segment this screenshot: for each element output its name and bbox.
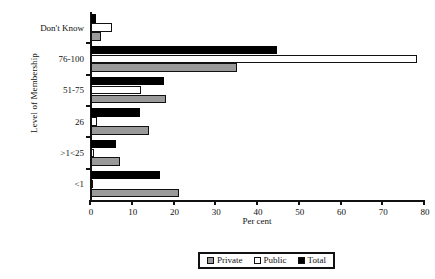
- x-axis-tick: [381, 200, 383, 205]
- y-axis-tick: [86, 74, 92, 76]
- legend-swatch-private-icon: [207, 257, 214, 264]
- x-axis-tick: [214, 200, 216, 205]
- bar-private: [91, 189, 179, 197]
- bar-private: [91, 126, 149, 134]
- legend-swatch-public-icon: [254, 257, 261, 264]
- bar-private: [91, 95, 166, 103]
- chart-legend: Private Public Total: [198, 252, 335, 269]
- legend-item-public: Public: [254, 256, 287, 265]
- bar-total: [91, 77, 164, 85]
- legend-label-private: Private: [217, 256, 243, 265]
- legend-label-total: Total: [308, 256, 326, 265]
- bar-public: [91, 117, 97, 125]
- y-axis-category-label: Don't Know: [40, 23, 84, 33]
- bar-total: [91, 46, 277, 54]
- y-axis-title: Level of Membership: [29, 13, 39, 173]
- bar-public: [91, 86, 141, 94]
- x-axis-tick: [131, 200, 133, 205]
- y-axis-category-label: 76-100: [59, 54, 85, 64]
- bar-private: [91, 63, 237, 71]
- y-axis-tick: [86, 42, 92, 44]
- bar-private: [91, 32, 101, 40]
- bar-public: [91, 180, 93, 188]
- y-axis-category-label: <1: [74, 179, 84, 189]
- legend-label-public: Public: [264, 256, 287, 265]
- bar-private: [91, 157, 120, 165]
- bar-total: [91, 140, 116, 148]
- y-axis-tick: [86, 168, 92, 170]
- x-axis-tick: [89, 200, 91, 205]
- x-axis-title: Per cent: [90, 216, 424, 226]
- y-axis-category-label: 26: [75, 117, 84, 127]
- legend-swatch-total-icon: [298, 257, 305, 264]
- bar-public: [91, 149, 94, 157]
- x-axis-tick: [340, 200, 342, 205]
- y-axis-category-label: >1<25: [60, 148, 84, 158]
- y-axis-tick: [86, 105, 92, 107]
- x-axis-tick: [423, 200, 425, 205]
- x-axis-tick: [298, 200, 300, 205]
- bar-total: [91, 171, 160, 179]
- bar-total: [91, 14, 96, 22]
- bar-total: [91, 108, 140, 116]
- bar-public: [91, 55, 417, 63]
- y-axis-category-label: 51-75: [63, 85, 84, 95]
- bar-public: [91, 23, 112, 31]
- legend-item-total: Total: [298, 256, 326, 265]
- x-axis-tick: [256, 200, 258, 205]
- x-axis-tick: [173, 200, 175, 205]
- y-axis-tick: [86, 136, 92, 138]
- bar-chart: Level of Membership 01020304050607080<1>…: [0, 0, 435, 279]
- plot-area: 01020304050607080<1>1<252651-7576-100Don…: [90, 12, 424, 200]
- legend-item-private: Private: [207, 256, 243, 265]
